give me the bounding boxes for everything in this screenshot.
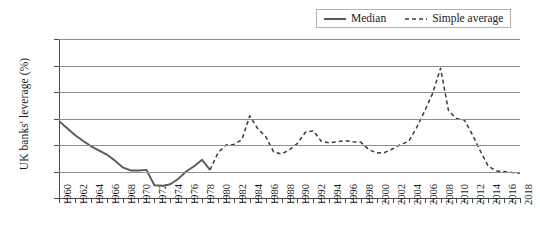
x-tick-mark — [59, 199, 60, 203]
x-tick-mark — [456, 199, 457, 203]
x-tick-mark — [91, 199, 92, 203]
gridline — [59, 66, 520, 67]
x-tick-label: 2018 — [524, 184, 535, 205]
x-tick-mark — [138, 199, 139, 203]
gridline — [59, 145, 520, 146]
x-tick-mark — [186, 199, 187, 203]
gridline — [59, 39, 520, 40]
legend-label-simple-average: Simple average — [432, 13, 503, 25]
x-tick-mark — [170, 199, 171, 203]
y-axis-title: UK banks' leverage (%) — [18, 24, 30, 204]
gridline — [59, 119, 520, 120]
x-tick-mark — [520, 199, 521, 203]
x-tick-mark — [504, 199, 505, 203]
x-tick-mark — [488, 199, 489, 203]
x-tick-mark — [234, 199, 235, 203]
x-tick-mark — [441, 199, 442, 203]
x-tick-mark — [266, 199, 267, 203]
x-tick-mark — [75, 199, 76, 203]
legend-item-median: Median — [324, 13, 386, 25]
x-tick-mark — [425, 199, 426, 203]
legend-item-simple-average: Simple average — [405, 13, 503, 25]
x-tick-mark — [218, 199, 219, 203]
x-tick-mark — [202, 199, 203, 203]
x-tick-mark — [393, 199, 394, 203]
x-tick-mark — [313, 199, 314, 203]
x-tick-mark — [345, 199, 346, 203]
x-tick-mark — [250, 199, 251, 203]
legend-swatch-solid — [324, 15, 346, 23]
leverage-line-chart: UK banks' leverage (%) 10152025303540 19… — [0, 0, 540, 248]
legend-swatch-dashed — [405, 15, 427, 23]
x-tick-mark — [297, 199, 298, 203]
x-tick-mark — [472, 199, 473, 203]
chart-legend: Median Simple average — [316, 9, 511, 28]
x-tick-mark — [282, 199, 283, 203]
x-tick-mark — [329, 199, 330, 203]
gridline — [59, 92, 520, 93]
plot-area — [59, 39, 520, 198]
x-tick-mark — [123, 199, 124, 203]
x-tick-mark — [361, 199, 362, 203]
series-line-median — [59, 121, 210, 186]
x-tick-mark — [409, 199, 410, 203]
x-tick-mark — [154, 199, 155, 203]
x-tick-mark — [107, 199, 108, 203]
series-line-simple-average — [210, 68, 520, 173]
legend-label-median: Median — [351, 13, 386, 25]
gridline — [59, 172, 520, 173]
x-tick-mark — [377, 199, 378, 203]
